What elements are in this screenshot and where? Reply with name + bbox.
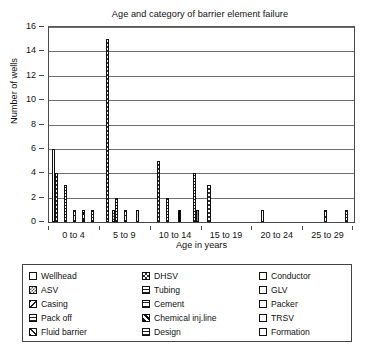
gridline — [49, 125, 354, 126]
legend-item-label: DHSV — [154, 272, 178, 281]
legend-item-label: Fluid barrier — [41, 328, 87, 337]
bar — [73, 210, 76, 222]
bar — [106, 39, 109, 222]
legend-swatch-icon — [259, 272, 267, 280]
y-tick-mark — [39, 124, 44, 125]
legend-swatch-icon — [259, 286, 267, 294]
x-tick-label: 20 to 24 — [251, 230, 302, 240]
legend-item[interactable]: Tubing — [142, 286, 259, 295]
y-tick-label: 6 — [31, 143, 36, 152]
legend-swatch-icon — [29, 272, 37, 280]
legend-swatch-icon — [29, 314, 37, 322]
legend-swatch-icon — [259, 328, 267, 336]
x-tick-mark — [48, 226, 49, 230]
x-tick-mark — [302, 226, 303, 230]
legend-item[interactable]: Fluid barrier — [29, 328, 142, 337]
legend-swatch-icon — [142, 300, 150, 308]
y-tick-label: 12 — [26, 70, 36, 79]
legend-item[interactable]: DHSV — [142, 272, 259, 281]
y-tick-mark — [39, 75, 44, 76]
legend-item[interactable]: Pack off — [29, 314, 142, 323]
gridline — [49, 149, 354, 150]
y-axis: 0246810121416 — [0, 26, 44, 223]
chart-legend: WellheadDHSVConductorASVTubingGLVCasingC… — [22, 264, 352, 342]
legend-item[interactable]: Chemical inj.line — [142, 314, 259, 323]
legend-item-label: Pack off — [41, 314, 72, 323]
bar — [166, 198, 169, 222]
plot-area — [48, 26, 355, 223]
legend-item-label: Chemical inj.line — [154, 314, 217, 323]
bar — [178, 210, 181, 222]
bar — [55, 173, 58, 222]
x-tick-label: 25 to 29 — [302, 230, 353, 240]
y-tick-label: 0 — [31, 217, 36, 226]
legend-item-label: Wellhead — [41, 272, 77, 281]
legend-item[interactable]: ASV — [29, 286, 142, 295]
legend-swatch-icon — [259, 300, 267, 308]
legend-item[interactable]: Cement — [142, 300, 259, 309]
y-tick-label: 16 — [26, 22, 36, 31]
y-tick-mark — [39, 172, 44, 173]
legend-item-label: Design — [154, 328, 181, 337]
bar — [124, 210, 127, 222]
x-tick-mark — [251, 226, 252, 230]
gridline — [49, 198, 354, 199]
bar — [136, 210, 139, 222]
legend-item-label: Tubing — [154, 286, 180, 295]
y-tick-mark — [39, 26, 44, 27]
x-tick-mark — [150, 226, 151, 230]
legend-item[interactable]: Design — [142, 328, 259, 337]
legend-item[interactable]: Formation — [259, 328, 345, 337]
legend-item-label: Conductor — [271, 272, 311, 281]
legend-item[interactable]: Casing — [29, 300, 142, 309]
legend-swatch-icon — [142, 272, 150, 280]
y-tick-mark — [39, 148, 44, 149]
legend-swatch-icon — [142, 328, 150, 336]
bar — [324, 210, 327, 222]
legend-swatch-icon — [29, 328, 37, 336]
legend-swatch-icon — [29, 286, 37, 294]
legend-swatch-icon — [259, 314, 267, 322]
x-tick-label: 15 to 19 — [201, 230, 252, 240]
y-tick-label: 10 — [26, 95, 36, 104]
gridline — [49, 173, 354, 174]
legend-item[interactable]: GLV — [259, 286, 345, 295]
x-tick-mark — [352, 226, 353, 230]
legend-item[interactable]: Packer — [259, 300, 345, 309]
bar — [207, 185, 210, 222]
bar — [82, 210, 85, 222]
y-tick-label: 8 — [31, 119, 36, 128]
x-tick-mark — [99, 226, 100, 230]
legend-item-label: GLV — [271, 286, 288, 295]
legend-swatch-icon — [142, 314, 150, 322]
chart-title: Age and category of barrier element fail… — [40, 9, 360, 19]
x-tick-label: 10 to 14 — [150, 230, 201, 240]
y-tick-mark — [39, 99, 44, 100]
gridline — [49, 100, 354, 101]
legend-swatch-icon — [142, 286, 150, 294]
gridline — [49, 76, 354, 77]
legend-item-label: Packer — [271, 300, 298, 309]
x-tick-label: 0 to 4 — [48, 230, 99, 240]
y-tick-mark — [39, 50, 44, 51]
x-axis-title: Age in years — [48, 240, 355, 250]
bar — [157, 161, 160, 222]
legend-item-label: ASV — [41, 286, 58, 295]
legend-item[interactable]: Conductor — [259, 272, 345, 281]
bar — [64, 185, 67, 222]
legend-item-label: Cement — [154, 300, 184, 309]
x-tick-mark — [201, 226, 202, 230]
gridline — [49, 51, 354, 52]
bar — [196, 210, 199, 222]
legend-item[interactable]: Wellhead — [29, 272, 142, 281]
chart-figure: Age and category of barrier element fail… — [0, 0, 371, 363]
bar — [261, 210, 264, 222]
legend-item[interactable]: TRSV — [259, 314, 345, 323]
gridline — [49, 27, 354, 28]
legend-swatch-icon — [29, 300, 37, 308]
x-axis: 0 to 45 to 910 to 1415 to 1920 to 2425 t… — [48, 226, 355, 240]
bar — [91, 210, 94, 222]
y-tick-label: 14 — [26, 46, 36, 55]
y-tick-mark — [39, 221, 44, 222]
bar — [345, 210, 348, 222]
